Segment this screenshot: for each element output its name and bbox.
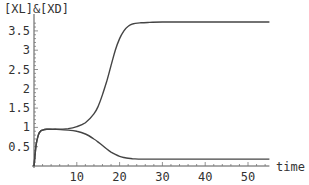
y-tick-label: 2.5: [8, 63, 30, 77]
chart-container: [XL]&[XD] time 10203040500.511.522.533.5: [0, 0, 309, 185]
y-tick-label: 2: [23, 82, 30, 96]
line-chart: [XL]&[XD] time 10203040500.511.522.533.5: [0, 0, 309, 185]
y-tick-label: 3: [23, 43, 30, 57]
x-tick-label: 40: [198, 170, 212, 184]
y-tick-label: 0.5: [8, 140, 30, 154]
x-tick-label: 50: [241, 170, 255, 184]
x-tick-label: 20: [112, 170, 126, 184]
data-lines: [34, 22, 269, 166]
axes: [32, 14, 269, 168]
y-tick-label: 1: [23, 120, 30, 134]
series-line-xl: [34, 22, 269, 166]
ticks: 10203040500.511.522.533.5: [8, 23, 265, 184]
y-axis-label: [XL]&[XD]: [4, 2, 69, 16]
x-axis-label: time: [276, 160, 305, 174]
series-line-xd: [34, 129, 269, 166]
x-tick-label: 10: [70, 170, 84, 184]
x-tick-label: 30: [155, 170, 169, 184]
y-tick-label: 1.5: [8, 101, 30, 115]
y-tick-label: 3.5: [8, 24, 30, 38]
